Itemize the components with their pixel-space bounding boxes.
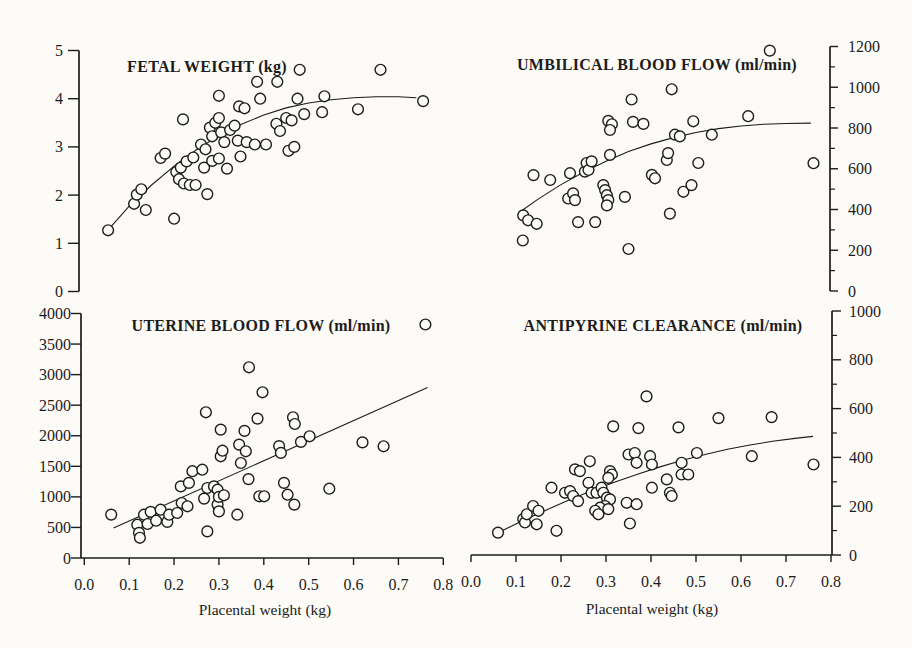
data-point bbox=[743, 111, 754, 122]
y-tick-label: 800 bbox=[848, 120, 872, 137]
data-point bbox=[324, 483, 335, 494]
data-point bbox=[565, 168, 576, 179]
data-point bbox=[219, 490, 230, 501]
data-point bbox=[353, 104, 364, 115]
data-point bbox=[666, 491, 677, 502]
data-point bbox=[239, 103, 250, 114]
data-point bbox=[252, 76, 263, 87]
y-tick-label: 200 bbox=[848, 242, 872, 259]
data-point bbox=[214, 90, 225, 101]
data-point bbox=[294, 64, 305, 75]
x-tick-label: 0.1 bbox=[506, 573, 526, 590]
data-point bbox=[188, 152, 199, 163]
data-point bbox=[202, 189, 213, 200]
data-point bbox=[693, 158, 704, 169]
data-point bbox=[252, 413, 263, 424]
data-point bbox=[686, 180, 697, 191]
data-point bbox=[255, 93, 266, 104]
data-point bbox=[683, 469, 694, 480]
fit-curve bbox=[109, 97, 416, 229]
data-point bbox=[570, 195, 581, 206]
data-point bbox=[261, 139, 272, 150]
data-point bbox=[517, 235, 528, 246]
y-tick-label: 5 bbox=[55, 42, 63, 59]
x-tick-label: 0.4 bbox=[254, 576, 274, 593]
y-tick-label: 0 bbox=[849, 547, 857, 564]
data-point bbox=[688, 116, 699, 127]
data-point bbox=[661, 474, 672, 485]
data-point bbox=[638, 119, 649, 130]
data-point bbox=[319, 91, 330, 102]
figure: 0123450200400600800100012000500100015002… bbox=[0, 0, 912, 648]
data-point bbox=[602, 200, 613, 211]
data-point bbox=[184, 478, 195, 489]
data-point bbox=[172, 508, 183, 519]
data-point bbox=[276, 448, 287, 459]
data-point bbox=[257, 387, 268, 398]
data-point bbox=[420, 319, 431, 330]
data-point bbox=[665, 208, 676, 219]
data-point bbox=[239, 426, 250, 437]
data-point bbox=[590, 217, 601, 228]
data-point bbox=[289, 142, 300, 153]
x-tick-label: 0.7 bbox=[776, 573, 796, 590]
x-tick-label: 0.5 bbox=[299, 576, 319, 593]
data-point bbox=[545, 175, 556, 186]
data-point bbox=[190, 180, 201, 191]
x-tick-label: 0.5 bbox=[686, 573, 706, 590]
data-point bbox=[647, 459, 658, 470]
data-point bbox=[603, 473, 614, 484]
x-tick-label: 0.8 bbox=[821, 573, 841, 590]
data-point bbox=[275, 126, 286, 137]
data-point bbox=[232, 509, 243, 520]
data-point bbox=[603, 504, 614, 515]
y-tick-label: 400 bbox=[848, 201, 872, 218]
y-tick-label: 1000 bbox=[848, 79, 880, 96]
y-tick-label: 4000 bbox=[39, 305, 71, 322]
y-tick-label: 4 bbox=[55, 90, 63, 107]
data-point bbox=[593, 509, 604, 520]
data-point bbox=[217, 445, 228, 456]
data-point bbox=[378, 441, 389, 452]
data-point bbox=[106, 509, 117, 520]
y-tick-label: 2000 bbox=[39, 427, 71, 444]
y-tick-label: 500 bbox=[47, 519, 71, 536]
data-point bbox=[629, 448, 640, 459]
data-point bbox=[764, 45, 775, 56]
data-point bbox=[621, 497, 632, 508]
data-point bbox=[169, 213, 180, 224]
data-point bbox=[136, 184, 147, 195]
data-point bbox=[676, 457, 687, 468]
y-tick-label: 0 bbox=[848, 283, 856, 300]
data-point bbox=[628, 117, 639, 128]
data-point bbox=[575, 466, 586, 477]
x-tick-label: 0.4 bbox=[641, 573, 661, 590]
y-tick-label: 0 bbox=[63, 550, 71, 567]
data-point bbox=[235, 151, 246, 162]
data-point bbox=[713, 413, 724, 424]
x-tick-label: 0.0 bbox=[74, 576, 94, 593]
data-point bbox=[304, 431, 315, 442]
data-point bbox=[103, 225, 114, 236]
x-tick-label: 0.1 bbox=[119, 576, 139, 593]
data-point bbox=[808, 459, 819, 470]
data-point bbox=[641, 391, 652, 402]
panel-title-antipyrine-clearance: ANTIPYRINE CLEARANCE (ml/min) bbox=[524, 317, 803, 335]
data-point bbox=[214, 506, 225, 517]
data-point bbox=[573, 496, 584, 507]
data-point bbox=[151, 515, 162, 526]
x-tick-label: 0.3 bbox=[596, 573, 616, 590]
data-point bbox=[531, 519, 542, 530]
data-point bbox=[219, 137, 230, 148]
data-point bbox=[279, 478, 290, 489]
x-tick-label: 0.2 bbox=[551, 573, 571, 590]
data-point bbox=[666, 84, 677, 95]
x-tick-label: 0.6 bbox=[731, 573, 751, 590]
y-tick-label: 600 bbox=[849, 400, 873, 417]
y-tick-label: 1000 bbox=[39, 488, 71, 505]
data-point bbox=[178, 114, 189, 125]
data-point bbox=[605, 150, 616, 161]
y-tick-label: 1200 bbox=[848, 38, 880, 55]
data-point bbox=[673, 422, 684, 433]
data-point bbox=[229, 120, 240, 131]
